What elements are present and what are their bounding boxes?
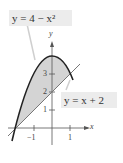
curve-equation-label: y = 4 − x²: [9, 10, 72, 26]
x-axis-label: x: [90, 122, 94, 131]
line-label-leader: [66, 80, 70, 90]
curve-label-leader: [27, 24, 35, 60]
y-axis-arrow-icon: [50, 41, 54, 47]
y-tick-label-2: 2: [43, 87, 47, 96]
x-tick-label-1: 1: [68, 133, 72, 142]
line-equation-label: y = x + 2: [61, 92, 117, 108]
y-tick-label-3: 3: [43, 69, 47, 78]
y-tick-label-1: 1: [43, 105, 47, 114]
y-axis-label: y: [49, 29, 53, 38]
x-tick-label-minus1: −1: [27, 133, 36, 142]
